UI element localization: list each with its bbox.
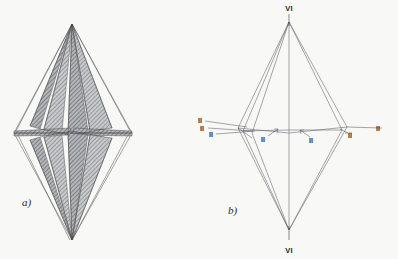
- axis-label-ii-right-inner: II: [348, 132, 352, 139]
- axis-label-vi-top: VI: [285, 4, 293, 13]
- axis-label-ii-left-outer-middle: II: [200, 125, 204, 132]
- axis-label-ii-left-outer-lower: II: [209, 131, 213, 138]
- panel-b-caption: b): [228, 204, 238, 217]
- axis-label-ii-inner-left: II: [261, 136, 265, 143]
- axis-label-ii-left-outer-upper: II: [198, 117, 202, 124]
- axis-label-vi-bottom: VI: [285, 246, 293, 255]
- panel-a-caption: a): [22, 196, 32, 209]
- bipyramid-figure-svg: a): [0, 0, 398, 259]
- figure-container: a): [0, 0, 398, 259]
- axis-label-ii-right-outer: II: [376, 125, 380, 132]
- axis-label-ii-inner-right: II: [309, 137, 313, 144]
